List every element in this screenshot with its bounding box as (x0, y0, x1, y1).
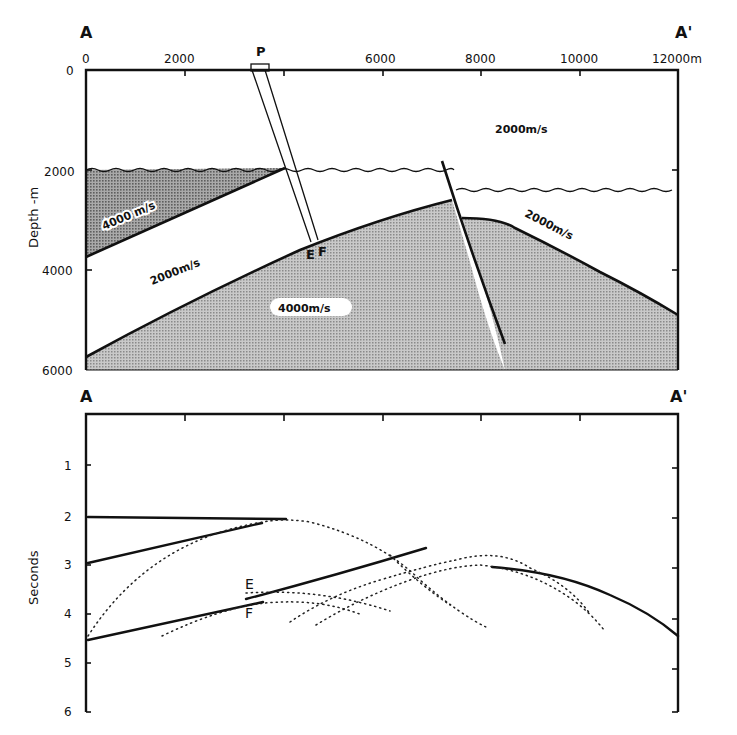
velocity-label-top-right: 2000m/s (495, 123, 548, 136)
shotpoint-label: P (256, 44, 266, 59)
seismic-figure: A A' 0 2000 6000 8000 10000 12000m 0 200… (0, 0, 737, 735)
time-tick-label: 3 (64, 558, 72, 572)
velocity-label-basement: 4000m/s (270, 298, 352, 316)
velocity-label-middle: 2000m/s (148, 256, 202, 288)
y-tick-label: 4000 (42, 264, 73, 278)
time-ticks (86, 414, 678, 712)
time-section-left-label: A (80, 387, 93, 406)
depth-section: A A' 0 2000 6000 8000 10000 12000m 0 200… (26, 23, 702, 378)
time-tick-label: 5 (64, 656, 72, 670)
x-tick-label: 12000m (652, 52, 702, 66)
y-tick-label: 6000 (42, 364, 73, 378)
wedge-base-reflection (88, 523, 262, 563)
depth-section-left-label: A (80, 23, 93, 42)
x-tick-label: 8000 (465, 52, 496, 66)
reflection-point-f-label: F (318, 244, 327, 259)
time-axis-title: Seconds (26, 550, 41, 605)
basement-right-reflection (492, 567, 678, 636)
time-tick-label: 2 (64, 510, 72, 524)
unconformity-right (456, 189, 672, 192)
depth-axis-title: Depth -m (26, 187, 41, 248)
y-tick-label: 2000 (44, 165, 75, 179)
time-tick-label: 1 (64, 459, 72, 473)
ray-path (252, 70, 318, 242)
x-tick-label: 0 (82, 52, 90, 66)
depth-section-right-label: A' (675, 23, 692, 42)
event-f-label: F (245, 605, 253, 621)
event-e-label: E (245, 576, 254, 592)
svg-text:4000m/s: 4000m/s (278, 302, 331, 315)
time-section: A A' 1 2 3 4 5 6 Seconds (26, 387, 687, 719)
time-section-frame (86, 414, 678, 712)
time-tick-label: 4 (64, 607, 72, 621)
x-tick-label: 10000 (560, 52, 598, 66)
x-tick-label: 2000 (164, 52, 195, 66)
diffraction-curves (88, 520, 604, 636)
event-e-reflection (246, 548, 426, 599)
x-tick-label: 6000 (365, 52, 396, 66)
unconformity-reflection (88, 517, 286, 519)
time-section-right-label: A' (670, 387, 687, 406)
reflection-point-e-label: E (306, 247, 315, 262)
y-tick-label: 0 (66, 64, 74, 78)
time-tick-label: 6 (64, 705, 72, 719)
